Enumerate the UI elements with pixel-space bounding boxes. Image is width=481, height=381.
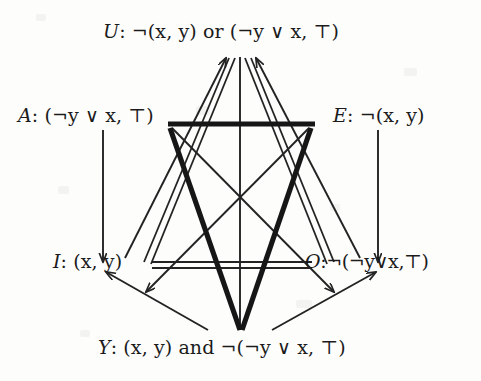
edge-A-to-Y-thick	[170, 128, 240, 330]
vertex-label-I: I: (x, y)	[53, 250, 122, 272]
vertex-tag-O: O	[305, 250, 320, 272]
edge-group-thick-contrariety	[168, 124, 315, 330]
vertex-sep-U: :	[119, 20, 126, 42]
vertex-formula-Y: (x, y) and ¬(¬y ∨ x, ⊤)	[123, 336, 346, 358]
vertex-sep-A: :	[32, 104, 39, 126]
vertex-label-O: O:¬(¬y∨x,⊤)	[305, 250, 429, 272]
vertex-sep-E: :	[347, 104, 354, 126]
vertex-label-Y: Y: (x, y) and ¬(¬y ∨ x, ⊤)	[98, 336, 346, 358]
vertex-label-U: U: ¬(x, y) or (¬y ∨ x, ⊤)	[103, 20, 339, 42]
vertex-label-A: A: (¬y ∨ x, ⊤)	[18, 104, 154, 126]
vertex-tag-I: I	[53, 250, 61, 272]
vertex-sep-I: :	[61, 250, 68, 272]
vertex-tag-U: U	[103, 20, 119, 42]
vertex-label-E: E: ¬(x, y)	[333, 104, 425, 126]
vertex-tag-A: A	[18, 104, 32, 126]
vertex-formula-O: ¬(¬y∨x,⊤)	[326, 250, 428, 272]
edge-U-to-I-double-outer	[144, 58, 229, 262]
edge-U-to-O-double-inner	[245, 58, 327, 264]
diagram-page: U: ¬(x, y) or (¬y ∨ x, ⊤) A: (¬y ∨ x, ⊤)…	[0, 0, 481, 381]
vertex-formula-E: ¬(x, y)	[360, 104, 425, 126]
vertex-tag-E: E	[333, 104, 347, 126]
vertex-formula-U: ¬(x, y) or (¬y ∨ x, ⊤)	[132, 20, 339, 42]
edge-U-to-O-double-outer	[251, 58, 334, 262]
vertex-sep-Y: :	[111, 336, 118, 358]
edge-E-to-Y-thick	[242, 128, 311, 330]
hexagon-of-opposition-svg	[0, 0, 481, 381]
vertex-formula-I: (x, y)	[73, 250, 122, 272]
vertex-formula-A: (¬y ∨ x, ⊤)	[44, 104, 153, 126]
vertex-tag-Y: Y	[98, 336, 111, 358]
edge-U-to-I-double-inner	[151, 58, 235, 264]
